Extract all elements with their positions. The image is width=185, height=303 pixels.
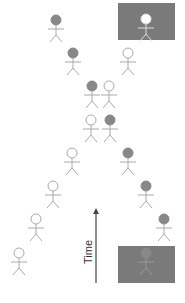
figure-head-icon xyxy=(141,14,151,24)
figure-leg-left xyxy=(47,201,53,208)
figure-leg-left xyxy=(104,135,110,142)
figure-leg-left xyxy=(103,101,109,108)
figure-leg-right xyxy=(73,68,79,75)
figure-head-icon xyxy=(159,214,169,224)
figure-leg-right xyxy=(91,135,97,142)
figure-head-icon xyxy=(104,81,114,91)
figure-leg-right xyxy=(53,201,59,208)
stick-figure xyxy=(65,48,81,75)
figure-leg-left xyxy=(86,101,92,108)
figure-head-icon xyxy=(141,248,151,258)
figure-leg-right xyxy=(72,168,78,175)
figure-leg-right xyxy=(110,135,116,142)
figure-head-icon xyxy=(67,148,77,158)
figure-head-icon xyxy=(31,214,41,224)
figure-leg-left xyxy=(50,35,56,42)
time-arrow-head-icon xyxy=(93,208,99,214)
figure-leg-right xyxy=(128,68,134,75)
stick-figure xyxy=(83,115,99,142)
stick-figure xyxy=(120,48,136,75)
figure-leg-right xyxy=(128,168,134,175)
stick-figure xyxy=(84,81,100,108)
figure-head-icon xyxy=(51,15,61,25)
stick-figure xyxy=(48,15,64,42)
figure-leg-left xyxy=(122,168,128,175)
figure-leg-left xyxy=(66,168,72,175)
stick-figure xyxy=(28,214,44,241)
figure-leg-right xyxy=(109,101,115,108)
stick-figure xyxy=(102,115,118,142)
figure-head-icon xyxy=(141,181,151,191)
figure-leg-right xyxy=(164,234,170,241)
figure-leg-left xyxy=(30,234,36,241)
figure-head-icon xyxy=(48,181,58,191)
figure-leg-left xyxy=(13,268,19,275)
figure-head-icon xyxy=(68,48,78,58)
figure-head-icon xyxy=(123,148,133,158)
figure-leg-right xyxy=(146,201,152,208)
figure-leg-right xyxy=(36,234,42,241)
figure-leg-right xyxy=(56,35,62,42)
stick-figure xyxy=(45,181,61,208)
figure-leg-left xyxy=(140,201,146,208)
stick-figure xyxy=(64,148,80,175)
stick-figure xyxy=(11,248,27,275)
figure-head-icon xyxy=(86,115,96,125)
stick-figure xyxy=(156,214,172,241)
figure-head-icon xyxy=(14,248,24,258)
stick-figure xyxy=(120,148,136,175)
figure-head-icon xyxy=(123,48,133,58)
stick-figure xyxy=(138,181,154,208)
figure-head-icon xyxy=(105,115,115,125)
figure-leg-left xyxy=(85,135,91,142)
stick-figure xyxy=(101,81,117,108)
figure-head-icon xyxy=(87,81,97,91)
time-label: Time xyxy=(82,240,94,264)
figure-leg-left xyxy=(158,234,164,241)
figure-leg-left xyxy=(67,68,73,75)
figure-leg-left xyxy=(122,68,128,75)
figure-leg-right xyxy=(92,101,98,108)
figure-leg-right xyxy=(19,268,25,275)
